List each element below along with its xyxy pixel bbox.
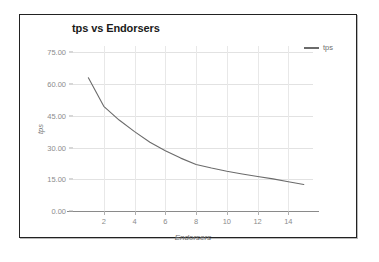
- x-axis-line: [67, 211, 319, 212]
- y-tick-mark: [69, 147, 73, 148]
- x-axis-title: Endorsers: [73, 233, 313, 242]
- x-tick-mark: [196, 211, 197, 215]
- plot-area: Endorsers tps 0.0015.0030.0045.0060.0075…: [73, 46, 313, 211]
- y-tick-label: 15.00: [47, 175, 66, 184]
- x-tick-mark: [135, 211, 136, 215]
- y-tick-mark: [69, 84, 73, 85]
- legend-label-tps: tps: [323, 43, 333, 52]
- x-tick-mark: [258, 211, 259, 215]
- y-tick-label: 0.00: [51, 207, 66, 216]
- y-tick-mark: [69, 211, 73, 212]
- x-tick-label: 12: [253, 217, 261, 226]
- x-tick-mark: [227, 211, 228, 215]
- x-tick-mark: [288, 211, 289, 215]
- y-tick-label: 45.00: [47, 111, 66, 120]
- x-tick-label: 4: [132, 217, 136, 226]
- y-axis-title: tps: [36, 123, 45, 133]
- y-tick-label: 75.00: [47, 48, 66, 57]
- chart-title: tps vs Endorsers: [72, 22, 160, 34]
- x-tick-mark: [165, 211, 166, 215]
- x-tick-label: 14: [284, 217, 292, 226]
- y-tick-mark: [69, 115, 73, 116]
- x-tick-mark: [104, 211, 105, 215]
- x-tick-label: 6: [163, 217, 167, 226]
- x-tick-label: 2: [102, 217, 106, 226]
- y-tick-mark: [69, 52, 73, 53]
- chart-frame: tps vs Endorsers tps Endorsers tps 0.001…: [19, 14, 357, 238]
- series-line-tps: [73, 46, 313, 211]
- y-tick-mark: [69, 179, 73, 180]
- y-tick-label: 30.00: [47, 143, 66, 152]
- x-tick-label: 10: [223, 217, 231, 226]
- x-tick-label: 8: [194, 217, 198, 226]
- y-tick-label: 60.00: [47, 80, 66, 89]
